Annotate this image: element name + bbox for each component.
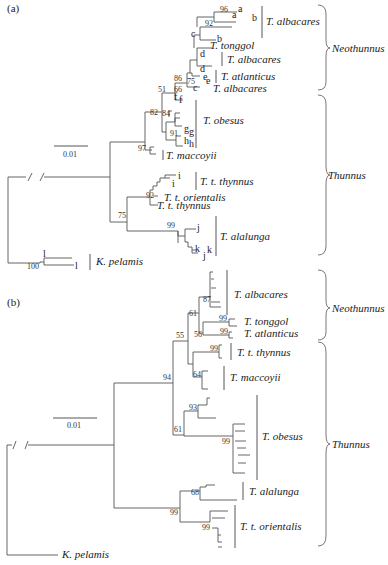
svg-text:99: 99 — [170, 508, 178, 517]
svg-text:i: i — [178, 170, 181, 181]
species-label: T. obesus — [203, 114, 244, 126]
svg-text:99: 99 — [202, 523, 210, 532]
svg-text:j: j — [202, 250, 206, 261]
svg-text:86: 86 — [174, 74, 182, 83]
svg-text:91: 91 — [170, 129, 178, 138]
svg-text:0.01: 0.01 — [67, 421, 81, 430]
panel-a-label: (a) — [7, 2, 20, 15]
svg-text:55: 55 — [176, 331, 184, 340]
svg-text:k: k — [207, 244, 212, 255]
species-label: T. t. orientalis — [240, 520, 302, 532]
svg-text:0.01: 0.01 — [63, 150, 77, 159]
species-label: T. t. thynnus — [200, 175, 254, 187]
svg-text:94: 94 — [163, 373, 171, 382]
clade-label-thunnus: Thunnus — [328, 169, 366, 181]
species-label: T. alalunga — [249, 485, 299, 497]
species-label: T. albacares — [213, 82, 267, 94]
svg-text:68: 68 — [191, 488, 199, 497]
species-label: T. t. thynnus — [157, 199, 211, 211]
svg-text:92: 92 — [146, 191, 154, 200]
svg-text:c: c — [193, 82, 198, 93]
svg-text:i: i — [172, 178, 175, 189]
svg-text:87: 87 — [203, 295, 211, 304]
svg-text:61: 61 — [189, 309, 197, 318]
svg-text:99: 99 — [167, 221, 175, 230]
svg-text:g: g — [189, 126, 194, 137]
svg-text:c: c — [191, 28, 196, 39]
species-label: T. obesus — [262, 430, 303, 442]
phylogenetic-figure: (a) — [0, 0, 388, 565]
svg-text:99: 99 — [220, 327, 228, 336]
panel-b-scale-bar: 0.01 — [53, 418, 97, 430]
svg-text:99: 99 — [222, 437, 230, 446]
svg-text:97: 97 — [138, 144, 146, 153]
svg-text:84: 84 — [162, 109, 170, 118]
svg-text:99: 99 — [219, 314, 227, 323]
svg-text:56: 56 — [194, 330, 202, 339]
svg-text:61: 61 — [174, 425, 182, 434]
svg-text:j: j — [196, 222, 200, 233]
svg-text:h: h — [189, 138, 194, 149]
panel-b-label: (b) — [7, 296, 20, 309]
svg-text:82: 82 — [150, 108, 158, 117]
panel-a-species-labels: T. albacares T. tonggol T. albacares T. … — [90, 6, 320, 270]
svg-text:l: l — [75, 260, 78, 271]
species-label: T. t. thynnus — [237, 346, 291, 358]
svg-text:f: f — [179, 94, 183, 105]
svg-text:100: 100 — [27, 262, 39, 271]
species-label: T. tonggol — [244, 315, 288, 327]
svg-text:92: 92 — [205, 19, 213, 28]
species-label: T. maccoyii — [230, 371, 281, 383]
panel-b-species-labels: T. albacares T. tonggol T. atlanticus T.… — [61, 270, 303, 560]
svg-text:b: b — [252, 12, 257, 23]
species-label: K. pelamis — [61, 548, 109, 560]
species-label: T. tonggol — [210, 39, 254, 51]
species-label: T. albacares — [234, 288, 288, 300]
species-label: T. alalunga — [220, 230, 270, 242]
clade-label-neothunnus: Neothunnus — [331, 302, 385, 314]
svg-text:75: 75 — [118, 211, 126, 220]
clade-label-neothunnus: Neothunnus — [331, 42, 385, 54]
svg-text:d: d — [200, 48, 205, 59]
species-label: T. albacares — [266, 15, 320, 27]
svg-text:96: 96 — [220, 5, 228, 14]
panel-b-clade-braces: Neothunnus Thunnus — [318, 270, 385, 546]
svg-text:93: 93 — [189, 403, 197, 412]
svg-text:k: k — [195, 243, 200, 254]
svg-text:64: 64 — [193, 370, 201, 379]
svg-text:e: e — [206, 75, 211, 86]
species-label: T. maccoyii — [166, 149, 217, 161]
svg-text:99: 99 — [210, 344, 218, 353]
species-label: K. pelamis — [95, 255, 143, 267]
svg-text:l: l — [43, 248, 46, 259]
svg-text:a: a — [238, 3, 243, 14]
panel-b-tree — [7, 272, 250, 555]
panel-a-scale-bar: 0.01 — [54, 146, 88, 159]
panel-a-clade-braces: Neothunnus Thunnus — [318, 5, 385, 255]
svg-text:51: 51 — [158, 85, 166, 94]
species-label: T. albacares — [227, 53, 281, 65]
species-label: T. atlanticus — [221, 70, 275, 82]
clade-label-thunnus: Thunnus — [332, 438, 370, 450]
svg-text:a: a — [232, 9, 237, 20]
species-label: T. atlanticus — [244, 327, 298, 339]
